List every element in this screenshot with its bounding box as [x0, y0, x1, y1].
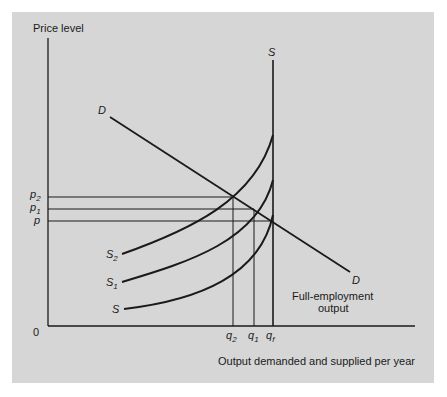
x-axis-label: Output demanded and supplied per year — [218, 355, 415, 367]
demand-label-start: D — [98, 104, 106, 116]
q1-label: q1 — [248, 329, 259, 344]
q2-label: q2 — [226, 329, 237, 344]
supply-curve-s — [124, 215, 273, 309]
aggregate-supply-demand-diagram: Price level 0 Output demanded and suppli… — [0, 0, 447, 397]
full-employment-annotation-line1: Full-employment — [292, 290, 373, 302]
qf-label: qf — [266, 329, 275, 344]
p-label: p — [33, 214, 40, 226]
vertical-supply-label: S — [268, 46, 276, 58]
demand-label-end: D — [352, 274, 360, 286]
y-axis-label: Price level — [33, 22, 84, 34]
s1-label: S1 — [106, 276, 118, 291]
supply-curve-s1 — [122, 180, 273, 282]
origin-label: 0 — [33, 326, 39, 338]
full-employment-annotation-line2: output — [318, 302, 349, 314]
s2-label: S2 — [106, 248, 118, 263]
s-label: S — [112, 303, 120, 315]
demand-curve — [110, 117, 350, 272]
supply-curve-s2 — [122, 135, 273, 254]
